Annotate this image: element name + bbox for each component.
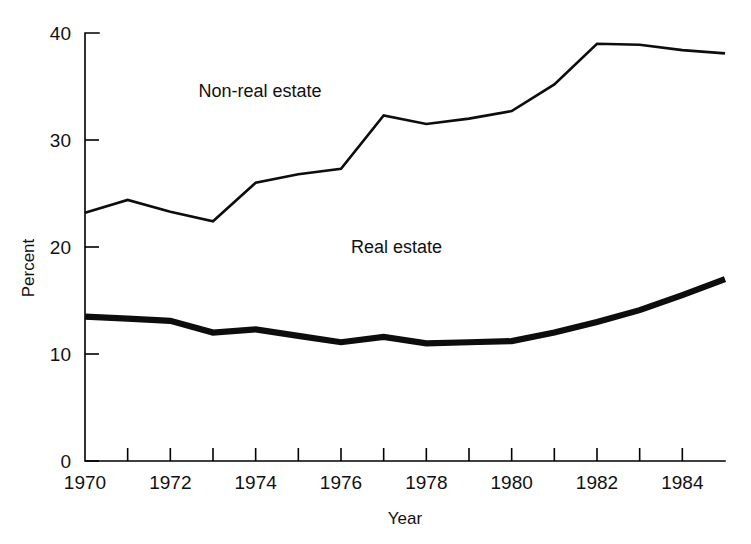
- series-line-real-estate: [85, 279, 725, 343]
- x-tick-label-1980: 1980: [491, 472, 533, 493]
- y-tick-label-40: 40: [50, 23, 71, 44]
- y-tick-label-20: 20: [50, 237, 71, 258]
- series-label-non-real-estate: Non-real estate: [198, 81, 321, 101]
- data-series-group: [85, 44, 725, 344]
- y-axis-ticks: [85, 140, 99, 461]
- y-axis-title: Percent: [19, 238, 38, 297]
- x-tick-label-1984: 1984: [661, 472, 704, 493]
- x-axis-tick-labels: 19701972197419761978198019821984: [64, 472, 704, 493]
- series-annotations: Non-real estateReal estate: [198, 81, 442, 257]
- x-tick-label-1978: 1978: [405, 472, 447, 493]
- x-tick-label-1982: 1982: [576, 472, 618, 493]
- chart-container: 010203040 197019721974197619781980198219…: [0, 0, 751, 544]
- y-tick-label-10: 10: [50, 344, 71, 365]
- x-tick-label-1970: 1970: [64, 472, 106, 493]
- line-chart: 010203040 197019721974197619781980198219…: [0, 0, 751, 544]
- x-tick-label-1976: 1976: [320, 472, 362, 493]
- x-tick-label-1974: 1974: [235, 472, 278, 493]
- series-line-non-real-estate: [85, 44, 725, 222]
- x-axis-title: Year: [388, 509, 423, 528]
- plot-area: 010203040 197019721974197619781980198219…: [50, 23, 725, 493]
- x-axis-ticks: [128, 448, 683, 461]
- y-tick-label-30: 30: [50, 130, 71, 151]
- series-label-real-estate: Real estate: [351, 237, 442, 257]
- x-tick-label-1972: 1972: [149, 472, 191, 493]
- y-tick-label-0: 0: [60, 451, 71, 472]
- y-axis-tick-labels: 010203040: [50, 23, 71, 472]
